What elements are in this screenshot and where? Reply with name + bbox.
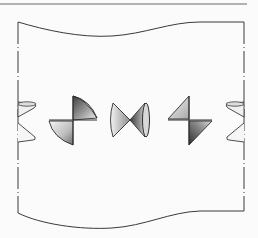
partial-cone-left: [18, 102, 36, 142]
bowtie-1: [49, 96, 97, 145]
sheet-top-edge: [18, 22, 244, 36]
bowtie-2: [111, 103, 150, 137]
diagram-svg: [0, 0, 258, 238]
partial-cone-right: [226, 102, 244, 142]
sheet-bottom-edge: [18, 211, 244, 228]
bowtie-3: [168, 96, 212, 145]
diagram-canvas: [0, 0, 258, 238]
